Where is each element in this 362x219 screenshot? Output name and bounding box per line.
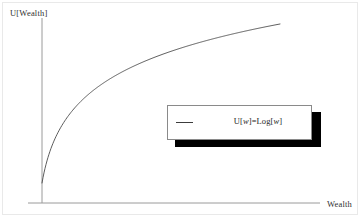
legend-label-middle: ]=Log[ bbox=[249, 116, 274, 126]
legend-box: U[w]=Log[w] bbox=[167, 105, 312, 140]
legend-entry-label: U[w]=Log[w] bbox=[210, 116, 306, 126]
plot-figure: U[Wealth] Wealth U[w]=Log[w] bbox=[0, 0, 362, 219]
x-axis-label: Wealth bbox=[327, 199, 352, 209]
legend-label-suffix: ] bbox=[279, 116, 282, 126]
legend-label-prefix: U[ bbox=[234, 116, 243, 126]
legend-line-swatch bbox=[176, 122, 193, 123]
utility-curve bbox=[42, 24, 280, 183]
y-axis-label: U[Wealth] bbox=[10, 8, 47, 18]
